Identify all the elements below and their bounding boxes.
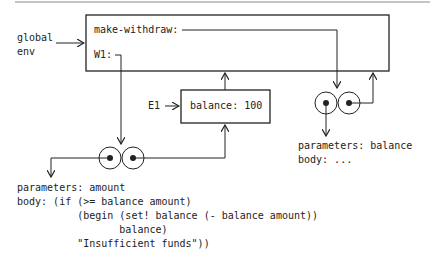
binding-make-withdraw: make-withdraw: xyxy=(94,23,178,37)
w1-body-line-1: body: (if (>= balance amount) xyxy=(17,195,192,209)
e1-binding-balance: balance: 100 xyxy=(190,99,262,113)
w1-body-line-2: (begin (set! balance (- balance amount)) xyxy=(17,209,318,223)
w1-pointer xyxy=(115,55,121,144)
w1-code-pointer xyxy=(51,158,110,177)
w1-body-line-3: balance) xyxy=(17,223,168,237)
binding-w1: W1: xyxy=(94,48,112,62)
w1-body-line-4: "Insufficient funds")) xyxy=(17,237,210,251)
w1-parameters: parameters: amount xyxy=(17,181,125,195)
global-env-label-line1: global xyxy=(17,31,53,45)
make-withdraw-body: body: ... xyxy=(298,153,352,167)
global-env-label-line2: env xyxy=(17,45,35,59)
w1-env-pointer xyxy=(133,125,225,158)
make-withdraw-env-pointer xyxy=(349,73,373,103)
e1-label: E1 xyxy=(148,99,160,113)
make-withdraw-parameters: parameters: balance xyxy=(298,139,412,153)
make-withdraw-pointer xyxy=(182,30,337,88)
